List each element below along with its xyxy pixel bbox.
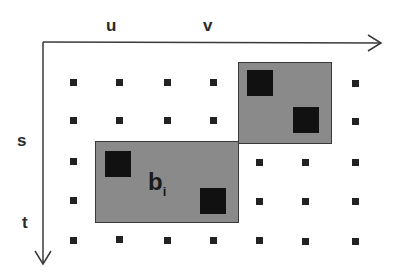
grid-dot (256, 237, 263, 244)
grid-dot (116, 79, 123, 86)
grid-dot (70, 197, 77, 204)
grid-dot (164, 117, 171, 124)
grid-dot (256, 198, 263, 205)
axis-label-s: s (17, 132, 26, 149)
horizontal-axis (43, 35, 381, 51)
grid-dot (352, 118, 359, 125)
grid-dot (70, 237, 77, 244)
vertical-axis (35, 42, 51, 264)
diagram-canvas: u v s t bi (0, 0, 404, 274)
block-label-subscript: i (163, 184, 167, 199)
block-neighbor-pixel-2 (293, 107, 319, 133)
grid-dot (70, 79, 77, 86)
grid-dot (302, 159, 309, 166)
axis-label-u: u (106, 17, 116, 34)
grid-dot (256, 159, 263, 166)
grid-dot (352, 159, 359, 166)
grid-dot (302, 198, 309, 205)
block-neighbor-pixel-1 (247, 70, 273, 96)
grid-dot (164, 79, 171, 86)
grid-dot (210, 237, 217, 244)
grid-dot (352, 238, 359, 245)
grid-dot (210, 79, 217, 86)
grid-dot (210, 117, 217, 124)
axis-label-t: t (22, 214, 28, 231)
block-bi-pixel-2 (200, 188, 226, 214)
grid-dot (352, 80, 359, 87)
grid-dot (302, 238, 309, 245)
grid-dot (70, 117, 77, 124)
grid-dot (352, 198, 359, 205)
block-bi-pixel-1 (105, 151, 131, 177)
grid-dot (70, 158, 77, 165)
block-bi-label: bi (148, 170, 166, 198)
grid-dot (116, 236, 123, 243)
grid-dot (164, 237, 171, 244)
grid-dot (116, 117, 123, 124)
axes-svg (0, 0, 404, 274)
axis-label-v: v (203, 17, 212, 34)
block-label-main: b (148, 168, 163, 195)
